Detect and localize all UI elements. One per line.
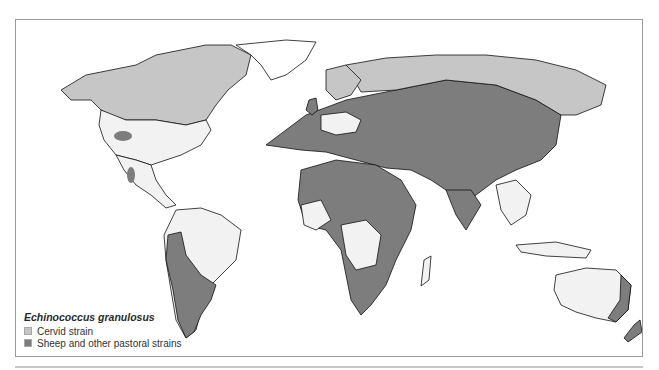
cervid-swatch <box>24 327 32 335</box>
region-mexico <box>116 155 176 208</box>
world-map <box>16 20 643 357</box>
region-indonesia <box>516 242 591 258</box>
legend-label-sheep: Sheep and other pastoral strains <box>37 338 182 349</box>
sheep-swatch <box>24 339 32 347</box>
legend-item-sheep: Sheep and other pastoral strains <box>24 337 182 349</box>
legend-title: Echinococcus granulosus <box>24 311 182 323</box>
region-madagascar <box>421 256 431 286</box>
region-canada-alaska <box>61 45 251 125</box>
region-se-asia <box>496 180 531 225</box>
map-frame: Echinococcus granulosus Cervid strain Sh… <box>15 19 643 357</box>
legend-label-cervid: Cervid strain <box>37 326 93 337</box>
region-india <box>446 190 481 230</box>
bottom-divider <box>15 366 643 368</box>
focus-mexico <box>127 167 135 183</box>
region-new-zealand <box>624 320 642 342</box>
legend-item-cervid: Cervid strain <box>24 325 182 337</box>
legend: Echinococcus granulosus Cervid strain Sh… <box>24 311 182 349</box>
focus-western-usa <box>114 131 132 141</box>
